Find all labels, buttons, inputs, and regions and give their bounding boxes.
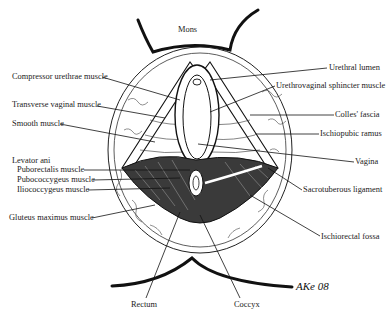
label-compressor-urethrae: Compressor urethrae muscle	[12, 72, 108, 82]
label-urethrovaginal-sphincter: Urethrovaginal sphincter muscle	[276, 81, 385, 91]
label-coccyx: Coccyx	[234, 300, 260, 310]
label-colles-fascia: Colles' fascia	[335, 110, 380, 120]
label-puborectalis: Puborectalis muscle	[17, 165, 84, 175]
label-vagina: Vagina	[355, 157, 378, 167]
artist-signature: AKe 08	[295, 280, 329, 292]
label-mons: Mons	[178, 25, 197, 35]
vagina-lumen	[183, 75, 211, 159]
label-urethral-lumen: Urethral lumen	[329, 63, 380, 73]
gluteal-outline	[112, 258, 292, 287]
label-transverse-vaginal: Transverse vaginal muscle	[12, 100, 101, 110]
label-iliococcygeus: Iliococcygeus muscle	[17, 185, 89, 195]
urethral-lumen	[193, 79, 201, 85]
label-gluteus-maximus: Gluteus maximus muscle	[9, 213, 94, 223]
label-ischiorectal-fossa: Ischiorectal fossa	[321, 232, 379, 242]
label-pubococcygeus: Pubococcygeus muscle	[17, 175, 95, 185]
diagram-drawing: AKe 08	[0, 0, 387, 316]
label-ischiopubic-ramus: Ischiopubic ramus	[320, 129, 382, 139]
rectum-opening	[189, 170, 203, 196]
anatomy-diagram: AKe 08 Mons Compressor urethrae muscle T…	[0, 0, 387, 316]
label-sacrotuberous-ligament: Sacrotuberous ligament	[303, 185, 382, 195]
mons-outline	[138, 10, 258, 52]
label-rectum: Rectum	[131, 300, 157, 310]
label-smooth-muscle: Smooth muscle	[12, 119, 64, 129]
